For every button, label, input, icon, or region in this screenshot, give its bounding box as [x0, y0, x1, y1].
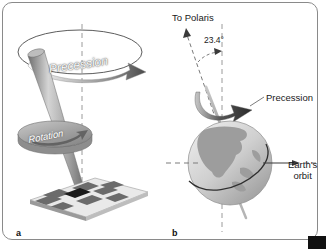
figure-container: Precession Rotation To Polaris 23.4° Pre…: [0, 0, 326, 249]
panel-letter-b: b: [172, 228, 178, 238]
earth-orbit-label: Earth's orbit: [288, 159, 317, 181]
tilt-angle-label: 23.4°: [204, 35, 224, 45]
panel-a-illustration: [0, 0, 326, 249]
earth-orbit-line2: orbit: [288, 170, 317, 181]
precession-curved-arrow: [195, 92, 252, 122]
precession-label-b: Precession: [266, 92, 313, 103]
earth-orbit-line1: Earth's: [288, 159, 317, 170]
checkerboard-base: [30, 178, 148, 221]
to-polaris-label: To Polaris: [172, 12, 214, 23]
precession-leader-line: [250, 97, 264, 106]
tilt-angle-arc: [198, 48, 222, 62]
panel-letter-a: a: [16, 228, 21, 238]
corner-block: [308, 236, 326, 249]
earth-rotation-axis-top: [206, 87, 222, 128]
